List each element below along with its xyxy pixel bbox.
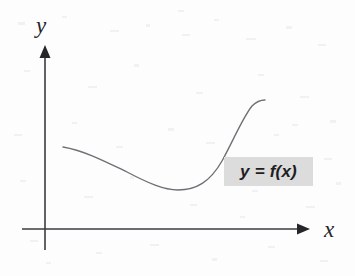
function-graph-figure: y x y = f(x) <box>0 0 355 276</box>
figure-drawing <box>0 0 355 276</box>
y-axis-arrowhead <box>40 45 51 58</box>
function-equation-label: y = f(x) <box>240 162 297 182</box>
equation-highlight-box: y = f(x) <box>224 157 313 186</box>
x-axis-arrowhead <box>297 224 310 235</box>
x-axis-label: x <box>324 218 334 241</box>
y-axis-label: y <box>36 14 46 37</box>
